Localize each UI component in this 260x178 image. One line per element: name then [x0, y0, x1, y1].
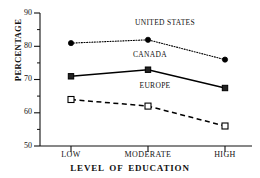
- data-point-marker: [145, 67, 150, 72]
- series-annotation-united-states: UNITED STATES: [135, 18, 195, 27]
- data-point-marker: [145, 103, 151, 109]
- x-tick-label-high: HIGH: [195, 150, 255, 159]
- series-annotation-europe: EUROPE: [140, 81, 171, 90]
- x-axis-title: LEVEL OF EDUCATION: [0, 163, 260, 173]
- x-tick-label-low: LOW: [41, 150, 101, 159]
- data-point-marker: [68, 74, 73, 79]
- data-point-marker: [222, 123, 228, 129]
- data-point-marker: [68, 41, 73, 46]
- line-chart: PERCENTAGE 90 80 70 60 50: [0, 0, 260, 178]
- axis-lines: [40, 13, 252, 146]
- x-tick-label-moderate: MODERATE: [118, 150, 178, 159]
- data-point-marker: [68, 97, 74, 103]
- data-point-marker: [222, 57, 227, 62]
- data-point-marker: [145, 37, 150, 42]
- series-europe: [68, 97, 228, 130]
- data-point-marker: [222, 85, 227, 90]
- series-annotation-canada: CANADA: [133, 50, 167, 59]
- y-major-ticks: [34, 13, 40, 146]
